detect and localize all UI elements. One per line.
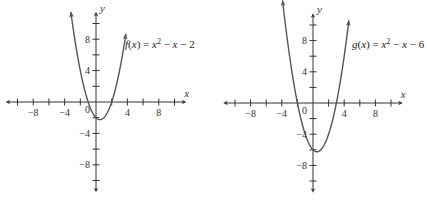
x-tick-label: −8 (245, 108, 256, 119)
y-axis-label: y (99, 2, 105, 14)
x-tick-label: −8 (28, 107, 39, 118)
chart-f: −8−44884−4−80xyf(x) = x2 − x − 2 (6, 2, 195, 193)
x-tick-label: −4 (59, 107, 70, 118)
x-tick-label: −4 (276, 108, 287, 119)
function-curve (283, 1, 349, 152)
x-tick-label: 8 (373, 108, 378, 119)
chart-g: −8−44884−4−80xyg(x) = x2 − x − 6 (223, 0, 424, 193)
x-axis-label: x (183, 87, 189, 99)
y-tick-label: −4 (79, 128, 90, 139)
x-tick-label: 4 (125, 107, 130, 118)
y-tick-label: −8 (79, 159, 90, 170)
y-tick-label: 4 (85, 65, 90, 76)
x-axis-label: x (400, 88, 406, 100)
x-tick-label: 4 (342, 108, 347, 119)
x-tick-label: 8 (156, 107, 161, 118)
y-tick-label: 8 (85, 34, 90, 45)
y-tick-label: 8 (302, 35, 307, 46)
origin-label: 0 (302, 105, 307, 116)
y-tick-label: 4 (302, 66, 307, 77)
charts-canvas: −8−44884−4−80xyf(x) = x2 − x − 2 −8−4488… (0, 0, 427, 201)
y-axis-label: y (316, 3, 322, 15)
function-label: f(x) = x2 − x − 2 (125, 37, 195, 51)
function-curve (71, 12, 126, 119)
function-label: g(x) = x2 − x − 6 (352, 37, 425, 51)
y-tick-label: −8 (296, 160, 307, 171)
